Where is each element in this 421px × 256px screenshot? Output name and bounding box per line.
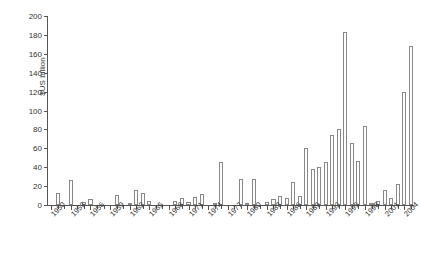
y-axis-tick-label: 160 xyxy=(29,49,42,58)
bar xyxy=(350,143,354,205)
bars-container xyxy=(48,16,414,205)
y-axis-tick-label: 100 xyxy=(29,106,42,115)
bar xyxy=(147,201,151,205)
y-axis-tick-label: 20 xyxy=(33,182,42,191)
bar xyxy=(317,167,321,205)
y-axis-tick-label: 140 xyxy=(29,68,42,77)
y-axis-tick-label: 200 xyxy=(29,12,42,21)
y-axis-tick-label: 180 xyxy=(29,30,42,39)
y-axis-tick-label: 120 xyxy=(29,87,42,96)
bar xyxy=(330,135,334,205)
bar xyxy=(343,32,347,205)
bar xyxy=(383,190,387,205)
bar xyxy=(265,202,269,205)
bar xyxy=(356,161,360,205)
bar xyxy=(304,148,308,205)
bar xyxy=(337,129,341,205)
y-axis-tick-label: 60 xyxy=(33,144,42,153)
bar xyxy=(409,46,413,205)
bar xyxy=(311,169,315,205)
x-axis-tick-labels: 1950195319561959196219651968197119741977… xyxy=(0,212,421,256)
bar xyxy=(285,198,289,205)
bar xyxy=(186,202,190,205)
bar-chart-figure: $US billion 020406080100120140160180200 … xyxy=(0,0,421,256)
bar xyxy=(219,162,223,205)
bar xyxy=(245,203,249,205)
bar xyxy=(402,92,406,205)
bar xyxy=(88,199,92,205)
bar xyxy=(69,180,73,205)
bar xyxy=(363,126,367,205)
y-axis-ticks: 020406080100120140160180200 xyxy=(0,0,48,206)
bar xyxy=(128,203,132,205)
y-axis-tick-label: 40 xyxy=(33,163,42,172)
bar xyxy=(324,162,328,205)
y-axis-tick-label: 80 xyxy=(33,125,42,134)
